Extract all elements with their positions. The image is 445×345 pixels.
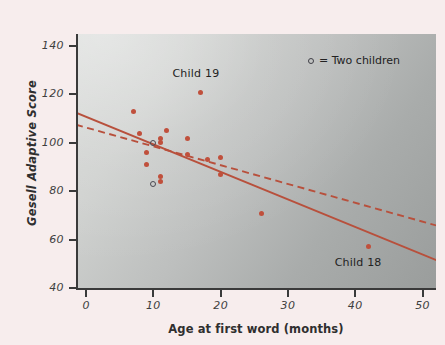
y-tick-60 [69, 239, 76, 241]
data-point [158, 136, 163, 141]
x-tick-label-0: 0 [71, 299, 101, 312]
y-tick-40 [69, 287, 76, 289]
y-tick-label-40: 40 [30, 281, 64, 294]
y-tick-80 [69, 190, 76, 192]
x-tick-0 [85, 290, 87, 297]
open-circle-marker-icon [308, 58, 314, 64]
x-tick-30 [287, 290, 289, 297]
x-tick-label-30: 30 [273, 299, 303, 312]
chart-frame: 40608010012014001020304050 Gesell Adapti… [8, 6, 437, 339]
x-tick-40 [354, 290, 356, 297]
regression-line-solid [76, 113, 439, 262]
data-point [198, 90, 203, 95]
annotation-child-19: Child 19 [172, 67, 219, 80]
y-tick-label-wrap-40: 40 [26, 281, 64, 295]
x-axis-line [76, 288, 436, 290]
data-point [131, 109, 136, 114]
x-tick-label-20: 20 [206, 299, 236, 312]
y-tick-label-140: 140 [30, 39, 64, 52]
x-tick-label-50: 50 [408, 299, 438, 312]
data-point [158, 179, 163, 184]
y-tick-label-wrap-140: 140 [26, 39, 64, 53]
y-tick-140 [69, 45, 76, 47]
data-point [205, 157, 210, 162]
x-tick-10 [152, 290, 154, 297]
x-tick-label-40: 40 [340, 299, 370, 312]
regression-line-dashed [76, 125, 439, 227]
annotation-child-18: Child 18 [335, 256, 382, 269]
y-tick-120 [69, 93, 76, 95]
legend: = Two children [308, 54, 400, 67]
y-tick-100 [69, 142, 76, 144]
y-axis-title: Gesell Adaptive Score [25, 53, 39, 253]
figure-container: 40608010012014001020304050 Gesell Adapti… [0, 0, 445, 345]
x-tick-label-10: 10 [138, 299, 168, 312]
y-axis-line [76, 34, 78, 288]
data-point [158, 140, 163, 145]
x-tick-20 [220, 290, 222, 297]
data-point [185, 136, 190, 141]
legend-label: = Two children [319, 54, 400, 67]
data-point [218, 172, 223, 177]
data-point [259, 211, 264, 216]
data-point [158, 174, 163, 179]
x-axis-title: Age at first word (months) [76, 322, 436, 336]
x-tick-50 [422, 290, 424, 297]
